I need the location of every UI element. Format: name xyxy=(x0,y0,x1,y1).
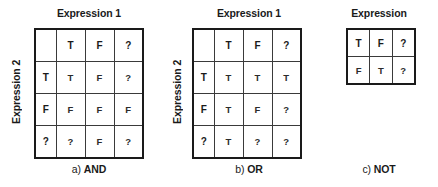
and-cell-2-0: ? xyxy=(56,126,85,159)
or-caption-op: OR xyxy=(247,163,263,175)
table-row: T F ? xyxy=(35,29,143,62)
panel-or: Expression 1 Expression 2 T F ? T T T T xyxy=(160,0,320,187)
or-col-header-0: T xyxy=(214,29,243,62)
and-cell-1-0: F xyxy=(56,94,85,126)
or-cell-2-1: ? xyxy=(243,126,272,159)
and-cell-2-1: F xyxy=(85,126,114,159)
and-cell-1-2: F xyxy=(114,94,143,126)
table-row: T T T T xyxy=(193,62,301,94)
table-row: T T F ? xyxy=(35,62,143,94)
and-col-header-1: F xyxy=(85,29,114,62)
and-caption: a) AND xyxy=(0,162,160,176)
not-col-header-2: ? xyxy=(392,29,415,57)
or-cell-2-2: ? xyxy=(272,126,301,159)
or-corner-cell xyxy=(193,29,214,62)
or-cell-1-1: F xyxy=(243,94,272,126)
table-row: ? ? F ? xyxy=(35,126,143,159)
or-truth-table: T F ? T T T T F T F ? ? T xyxy=(192,28,302,159)
table-row: T F ? xyxy=(347,29,415,57)
and-corner-cell xyxy=(35,29,56,62)
and-cell-0-1: F xyxy=(85,62,114,94)
or-caption-index: b) xyxy=(235,163,244,175)
and-row-header-1: F xyxy=(35,94,56,126)
table-row: T F ? xyxy=(193,29,301,62)
or-row-header-0: T xyxy=(193,62,214,94)
not-col-header-1: F xyxy=(370,29,393,57)
and-row-header-2: ? xyxy=(35,126,56,159)
not-caption: c) NOT xyxy=(320,162,438,176)
and-cell-0-2: ? xyxy=(114,62,143,94)
and-column-heading: Expression 1 xyxy=(0,6,160,20)
or-cell-1-2: ? xyxy=(272,94,301,126)
and-row-header-0: T xyxy=(35,62,56,94)
and-cell-0-0: T xyxy=(56,62,85,94)
or-col-header-2: ? xyxy=(272,29,301,62)
and-caption-op: AND xyxy=(84,163,106,175)
panel-and: Expression 1 Expression 2 T F ? T T F ? xyxy=(0,0,160,187)
table-row: F F F F xyxy=(35,94,143,126)
not-cell-0-2: ? xyxy=(392,57,415,85)
not-caption-index: c) xyxy=(362,163,371,175)
or-cell-1-0: T xyxy=(214,94,243,126)
or-cell-0-0: T xyxy=(214,62,243,94)
and-cell-2-2: ? xyxy=(114,126,143,159)
not-truth-table: T F ? F T ? xyxy=(346,28,416,85)
not-cell-0-1: T xyxy=(370,57,393,85)
or-caption: b) OR xyxy=(160,162,320,176)
or-column-heading: Expression 1 xyxy=(160,6,320,20)
or-row-header-1: F xyxy=(193,94,214,126)
table-row: F T F ? xyxy=(193,94,301,126)
table-row: ? T ? ? xyxy=(193,126,301,159)
and-truth-table: T F ? T T F ? F F F F ? ? xyxy=(34,28,144,159)
or-col-header-1: F xyxy=(243,29,272,62)
truth-tables-figure: Expression 1 Expression 2 T F ? T T F ? xyxy=(0,0,438,187)
panel-not: Expression T F ? F T ? c) NOT xyxy=(320,0,438,187)
not-caption-op: NOT xyxy=(374,163,396,175)
not-column-heading: Expression xyxy=(320,6,438,20)
and-col-header-2: ? xyxy=(114,29,143,62)
or-cell-2-0: T xyxy=(214,126,243,159)
and-col-header-0: T xyxy=(56,29,85,62)
or-row-header-2: ? xyxy=(193,126,214,159)
and-cell-1-1: F xyxy=(85,94,114,126)
table-row: F T ? xyxy=(347,57,415,85)
and-row-heading: Expression 2 xyxy=(10,52,22,132)
not-cell-0-0: F xyxy=(347,57,370,85)
or-row-heading: Expression 2 xyxy=(171,52,183,132)
not-col-header-0: T xyxy=(347,29,370,57)
or-cell-0-1: T xyxy=(243,62,272,94)
and-caption-index: a) xyxy=(72,163,81,175)
or-cell-0-2: T xyxy=(272,62,301,94)
